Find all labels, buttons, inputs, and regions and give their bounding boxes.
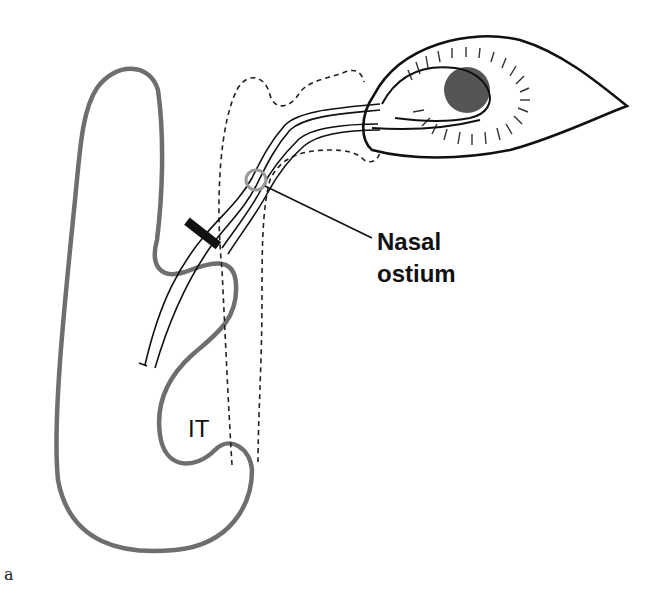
nasal-ostium-leader-line [265, 186, 372, 238]
nasolacrimal-duct-dashed-outline [258, 150, 380, 462]
panel-label: a [4, 565, 14, 584]
inferior-turbinate-label: IT [188, 415, 210, 442]
dacryocystorhinostomy-diagram: Nasal ostium IT a [0, 0, 668, 602]
eyelid-outline [363, 36, 627, 157]
nasal-ostium-label-line2: ostium [377, 260, 456, 287]
pupil [444, 67, 490, 113]
nasal-ostium-label-line1: Nasal [377, 228, 441, 255]
